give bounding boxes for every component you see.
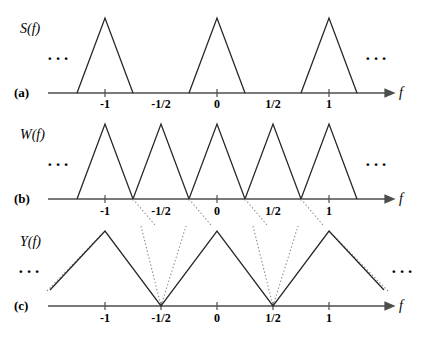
panel-b-right-ellipsis: ··· [365, 155, 390, 174]
panel-a-tick-label-half: 1/2 [265, 97, 280, 111]
panel-b-label: (b) [14, 191, 30, 206]
panel-b-dotted-extension-2 [189, 199, 211, 225]
panel-c-dotted-falling-2 [253, 226, 273, 306]
panel-c-tick-label-1: 1 [326, 311, 332, 325]
panel-a-left-ellipsis: ··· [47, 49, 72, 68]
figure-svg: S(f) W(f) Y(f) (a) (b) (c) ··· ··· ··· ·… [0, 0, 427, 340]
panel-c-tick-label--1: -1 [100, 311, 110, 325]
panel-b-function-label: W(f) [20, 127, 45, 143]
panel-a [48, 18, 386, 97]
panel-a-triangle-0 [189, 18, 245, 93]
panel-a-function-label: S(f) [20, 21, 41, 37]
panel-c-dotted-falling-1 [141, 226, 161, 306]
panel-b-tick-label-0: 0 [214, 204, 220, 218]
panel-a-right-ellipsis: ··· [365, 49, 390, 68]
panel-c-tick-label-half: 1/2 [265, 311, 280, 325]
panel-b-tick-label--half: -1/2 [151, 204, 170, 218]
panel-c-right-ellipsis: ··· [391, 262, 416, 281]
panel-c-dotted-rising-1 [161, 226, 186, 306]
panel-c-tick-label-0: 0 [214, 311, 220, 325]
panel-c-function-label: Y(f) [20, 234, 41, 250]
panel-b-triangle-train [77, 124, 357, 199]
panel-a-tick-label-1: 1 [326, 97, 332, 111]
panel-a-tick-label--half: -1/2 [151, 97, 170, 111]
panel-b-axis-variable: f [399, 191, 405, 206]
panel-c-label: (c) [14, 298, 28, 313]
panel-a-triangle-plus1 [301, 18, 357, 93]
panel-b-tick-label-half: 1/2 [265, 204, 280, 218]
panel-a-axis-variable: f [399, 85, 405, 100]
panel-b-tick-label-1: 1 [326, 204, 332, 218]
panel-b-left-ellipsis: ··· [47, 155, 72, 174]
panel-c-tick-label--half: -1/2 [151, 311, 170, 325]
panel-c-dotted-rising-2 [273, 226, 298, 306]
figure-container: S(f) W(f) Y(f) (a) (b) (c) ··· ··· ··· ·… [0, 0, 427, 340]
panel-c [47, 226, 388, 310]
panel-c-triangular-wave [50, 231, 384, 306]
panel-a-tick-label-0: 0 [214, 97, 220, 111]
panel-c-left-ellipsis: ··· [18, 262, 43, 281]
panel-a-triangle-minus1 [77, 18, 133, 93]
panel-b-dotted-extension-3 [245, 199, 267, 225]
panel-a-label: (a) [14, 85, 29, 100]
panel-b-dotted-extension-4 [301, 199, 323, 225]
panel-c-axis-variable: f [399, 298, 405, 313]
panel-b-tick-label--1: -1 [100, 204, 110, 218]
panel-a-tick-label--1: -1 [100, 97, 110, 111]
